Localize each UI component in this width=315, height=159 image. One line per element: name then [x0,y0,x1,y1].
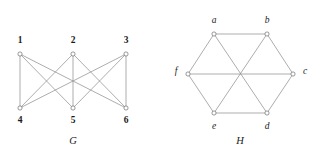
graph-caption-G: G [69,135,77,146]
vertex-G-2 [71,52,75,56]
graph-G-group: 123456 [18,35,129,125]
vertex-label-G-5: 5 [71,115,76,125]
vertex-H-b [265,32,269,36]
vertex-G-4 [18,106,22,110]
edge-e-f [188,74,214,113]
vertex-label-H-b: b [265,15,270,25]
vertex-label-H-a: a [212,15,217,25]
vertex-label-G-6: 6 [124,115,129,125]
vertex-label-G-1: 1 [18,35,23,45]
vertex-G-3 [124,52,128,56]
edge-f-a [188,34,214,74]
graph-figure-canvas: 123456 abcdef GH [0,0,315,159]
caption-group: GH [69,135,245,146]
vertex-label-H-c: c [303,66,308,76]
vertex-G-1 [18,52,22,56]
vertex-H-c [291,72,295,76]
vertex-G-6 [124,106,128,110]
vertex-label-G-4: 4 [18,115,23,125]
figure-root: 123456 abcdef GH [0,0,315,159]
graph-H-group: abcdef [175,15,308,131]
vertex-label-H-d: d [265,121,270,131]
vertex-H-f [186,72,190,76]
vertex-G-5 [71,106,75,110]
vertex-label-H-e: e [212,121,216,131]
edge-c-d [267,74,293,113]
vertex-label-G-3: 3 [124,35,129,45]
vertex-H-d [265,111,269,115]
vertex-label-H-f: f [175,66,179,76]
vertex-H-a [212,32,216,36]
graph-caption-H: H [235,135,245,146]
vertex-label-G-2: 2 [71,35,76,45]
vertex-H-e [212,111,216,115]
edge-b-c [267,34,293,74]
